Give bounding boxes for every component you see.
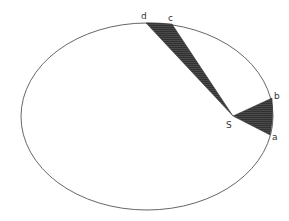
label-a: a	[272, 132, 278, 142]
kepler-orbit-diagram: d c b S a	[0, 0, 289, 221]
label-s-focus: S	[226, 120, 232, 130]
label-d: d	[141, 11, 147, 21]
label-c: c	[168, 13, 173, 23]
sector-cd	[146, 23, 233, 116]
label-b: b	[274, 91, 280, 101]
sector-ab	[233, 98, 273, 135]
